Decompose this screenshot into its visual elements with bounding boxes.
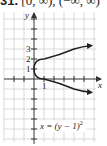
y-tick-label-2: 2 xyxy=(26,54,31,64)
equation-label: x = (y − 1)2 xyxy=(39,120,83,131)
y-tick-label-1: 1 xyxy=(26,64,31,74)
x-tick-label-1: 1 xyxy=(42,81,47,91)
parabola-graph: y x 3 2 1 1 x = (y − 1)2 xyxy=(0,0,107,146)
y-axis-label: y xyxy=(24,10,29,20)
x-axis-label: x xyxy=(97,80,102,90)
y-tick-label-3: 3 xyxy=(26,44,31,54)
